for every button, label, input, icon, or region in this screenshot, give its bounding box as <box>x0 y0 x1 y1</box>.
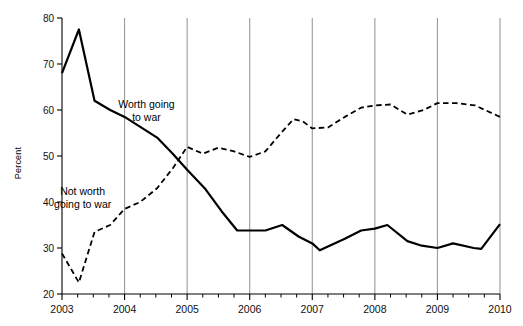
series-line-not-worth-going-to-war <box>62 103 500 282</box>
x-tick-label-2003: 2003 <box>50 303 74 315</box>
line-chart: 2030405060708020032004200520062007200820… <box>0 0 523 326</box>
y-tick-label-30: 30 <box>43 243 55 254</box>
annotation-not-worth-label-line1: Not worth <box>60 185 105 197</box>
y-tick-label-40: 40 <box>43 197 55 208</box>
y-axis-label: Percent <box>13 147 23 179</box>
y-tick-label-70: 70 <box>43 59 55 70</box>
y-tick-label-60: 60 <box>43 105 55 116</box>
series-line-worth-going-to-war <box>62 30 500 251</box>
x-tick-label-2010: 2010 <box>488 303 512 315</box>
chart-container: Percent 20304050607080200320042005200620… <box>0 0 523 326</box>
y-tick-label-80: 80 <box>43 13 55 24</box>
y-tick-label-50: 50 <box>43 151 55 162</box>
annotation-not-worth-label-line2: going to war <box>54 198 112 210</box>
x-tick-label-2008: 2008 <box>363 303 387 315</box>
x-tick-label-2004: 2004 <box>113 303 137 315</box>
y-tick-label-20: 20 <box>43 289 55 300</box>
x-tick-label-2005: 2005 <box>175 303 199 315</box>
annotation-worth-label-line1: Worth going <box>118 98 175 110</box>
x-tick-label-2007: 2007 <box>301 303 325 315</box>
annotation-worth-label-line2: to war <box>132 111 161 123</box>
x-tick-label-2009: 2009 <box>426 303 450 315</box>
x-tick-label-2006: 2006 <box>238 303 262 315</box>
